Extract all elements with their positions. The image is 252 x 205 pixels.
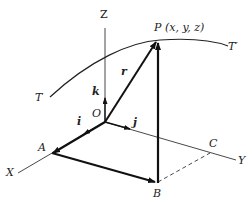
vector-ab — [52, 153, 155, 182]
label-r: r — [121, 65, 128, 78]
label-c: C — [209, 137, 218, 150]
label-p: P (x, y, z) — [153, 21, 204, 34]
label-b: B — [152, 187, 161, 200]
label-o: O — [92, 107, 101, 120]
label-k: k — [92, 85, 100, 98]
dashed-line-bc — [158, 153, 210, 182]
label-x: X — [5, 166, 15, 179]
label-t: T — [35, 91, 44, 104]
unit-vector-j — [105, 122, 130, 129]
vector-diagram: Z X Y O P (x, y, z) T T′ A B C i j k r — [0, 0, 252, 205]
label-j: j — [131, 116, 137, 129]
label-y: Y — [238, 154, 247, 167]
label-a: A — [37, 141, 46, 154]
unit-vector-i — [84, 122, 105, 134]
label-z: Z — [100, 8, 108, 21]
label-i: i — [77, 115, 81, 128]
label-t-prime: T′ — [228, 40, 238, 53]
